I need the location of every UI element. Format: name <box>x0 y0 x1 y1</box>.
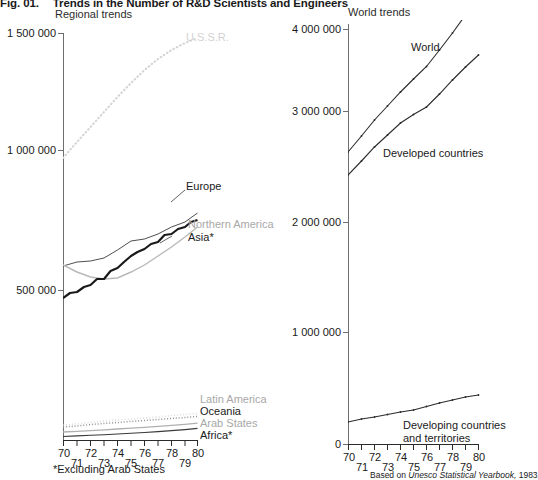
series-northern-america <box>63 227 198 279</box>
right-ytick-3000000: 3 000 000 <box>285 105 341 117</box>
series-africa <box>63 428 198 436</box>
series-label-developing-territories: and territories <box>403 432 470 444</box>
series-label-africa: Africa* <box>200 429 232 441</box>
left-chart-series <box>63 38 198 437</box>
series-developing-countries <box>348 395 479 422</box>
series-label-europe: Europe <box>186 180 221 192</box>
footnote-excluding-arab-states: *Excluding Arab States <box>53 463 165 475</box>
right-ytick-1000000: 1 000 000 <box>285 326 341 338</box>
source-year: 1983 <box>516 470 537 480</box>
left-chart-axes <box>58 33 198 446</box>
right-ytick-4000000: 4 000 000 <box>285 23 341 35</box>
series-label-arab-states: Arab States <box>200 417 257 429</box>
series-label-oceania: Oceania <box>200 405 241 417</box>
source-note: Based on Unesco Statistical Yearbook, 19… <box>370 470 538 480</box>
series-ussr <box>63 38 198 158</box>
right-chart-axes <box>343 24 479 450</box>
series-latin-america <box>63 414 198 426</box>
right-ytick-0: 0 <box>285 438 341 450</box>
right-xtick-71: 71 <box>354 461 370 473</box>
series-label-ussr: U.S.S.R. <box>186 31 229 43</box>
series-label-world: World <box>411 41 440 53</box>
series-label-latin-america: Latin America <box>200 393 267 405</box>
series-label-asia: Asia* <box>188 231 214 243</box>
series-label-developing-countries: Developing countries <box>403 419 506 431</box>
source-title: Unesco Statistical Yearbook, <box>408 470 516 480</box>
right-ytick-2000000: 2 000 000 <box>285 216 341 228</box>
left-ytick-1500000: 1 500 000 <box>0 27 56 39</box>
series-world <box>348 0 479 152</box>
left-ytick-1000000: 1 000 000 <box>0 144 56 156</box>
right-chart-series <box>347 0 479 423</box>
left-xtick-79: 79 <box>177 457 193 469</box>
source-prefix: Based on <box>370 470 408 480</box>
left-ytick-500000: 500 000 <box>0 284 56 296</box>
series-label-northern-america: Northern America <box>188 218 274 230</box>
series-label-developed-countries: Developed countries <box>383 147 483 159</box>
series-asia <box>63 220 198 298</box>
